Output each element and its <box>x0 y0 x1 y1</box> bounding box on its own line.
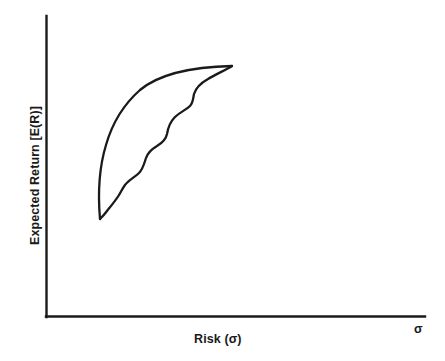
x-axis-label: Risk (σ) <box>194 332 242 346</box>
feasible-set-region <box>99 66 232 219</box>
plot-canvas <box>0 0 445 361</box>
x-axis-end-sigma-label: σ <box>414 322 423 336</box>
y-axis-label: Expected Return [E(R)] <box>28 0 48 245</box>
efficient-frontier-figure: Expected Return [E(R)] Risk (σ) σ <box>0 0 445 361</box>
inefficient-boundary-curve <box>100 66 232 219</box>
